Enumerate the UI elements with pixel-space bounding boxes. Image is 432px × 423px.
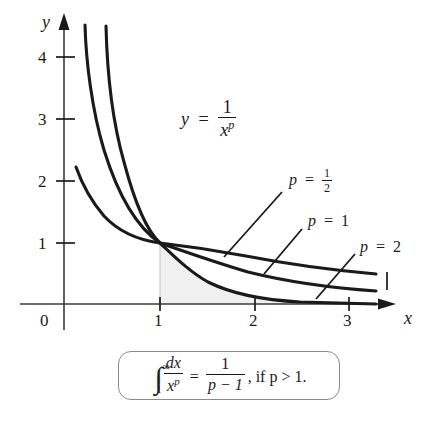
origin-label: 0 [40,311,49,331]
y-tick-label-1: 1 [38,234,47,254]
leader-line-p-two [316,254,355,299]
y-tick-label-4: 4 [38,48,47,68]
x-axis-label: x [404,308,412,329]
x-axis-arrowhead [378,299,396,310]
function-label-denominator: xp [218,118,236,139]
curve-p-one [85,25,376,291]
leader-line-p-one [264,229,302,274]
function-label-fraction: 1 xp [218,98,236,139]
curve-p-two [106,26,376,304]
leader-line-p-one-half [224,192,282,257]
y-tick-label-3: 3 [38,110,47,130]
curve-label-p-two-equals: = [372,238,389,255]
result-denominator: p − 1 [206,375,245,394]
function-label: y = 1 xp [181,100,236,141]
x-tick-label-2: 2 [249,311,258,331]
formula-box: ∫ ∞ 1 dx xp = 1 p − 1 , if p > 1. [118,351,340,400]
result-fraction: 1 p − 1 [206,355,245,394]
integrand-fraction: dx xp [164,354,183,395]
function-label-numerator: 1 [218,98,236,118]
curve-label-p-one-half-fraction: 1 2 [322,167,332,194]
curve-label-p-one: p = 1 [308,213,349,229]
function-label-denominator-base: x [220,120,228,140]
p-integral-figure: y x 0 1 2 3 1 2 3 4 y = 1 xp p = 1 2 p =… [0,0,432,423]
function-label-equals: = [194,109,214,129]
result-numerator: 1 [206,355,245,375]
y-axis-arrowhead [59,13,70,30]
curve-label-p-two-symbol: p [360,238,368,255]
curve-label-p-one-value: 1 [341,212,349,229]
x-tick-label-1: 1 [154,311,163,331]
curve-label-p-one-equals: = [320,212,337,229]
function-label-denominator-exponent: p [228,118,234,132]
formula-equals: = [183,368,206,386]
integral-lower-limit: 1 [157,386,162,394]
integral-sign-group: ∫ ∞ 1 [154,366,164,390]
curve-label-p-one-half-symbol: p [289,171,297,188]
y-tick-label-2: 2 [38,172,47,192]
integrand-denominator: xp [164,374,183,395]
x-tick-label-3: 3 [343,311,352,331]
curve-label-p-one-symbol: p [308,212,316,229]
curve-label-p-one-half-denominator: 2 [322,181,332,194]
curve-label-p-two: p = 2 [360,239,401,255]
curve-label-p-one-half-equals: = [301,171,318,188]
y-axis-label: y [42,12,50,33]
integrand-denominator-exponent: p [174,375,179,387]
function-label-lhs: y [181,109,189,129]
curve-label-p-one-half: p = 1 2 [289,168,332,195]
integrand-numerator: dx [164,354,183,374]
curve-label-p-one-half-numerator: 1 [322,167,332,181]
formula-expression: ∫ ∞ 1 dx xp = 1 p − 1 , if p > 1. [119,352,341,401]
formula-condition: , if p > 1. [245,368,307,386]
curve-label-p-two-value: 2 [393,238,401,255]
